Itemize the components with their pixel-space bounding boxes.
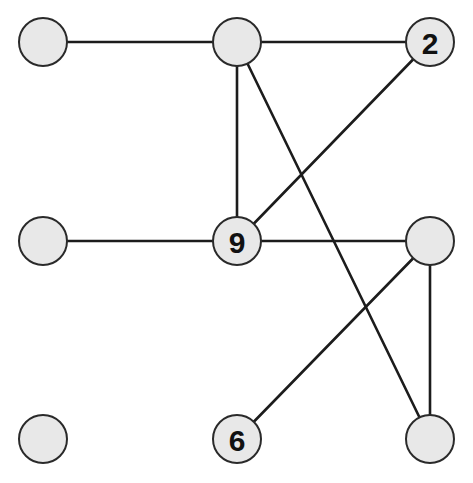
node-label: 6 [229,424,246,457]
node-r1c0 [19,217,67,265]
node-r1c2 [406,217,454,265]
node-r2c1: 6 [213,415,261,463]
node-r0c0 [19,18,67,66]
node-r0c1 [213,18,261,66]
node-label: 2 [422,27,439,60]
node-r1c1: 9 [213,217,261,265]
node-circle [406,217,454,265]
node-label: 9 [229,226,246,259]
edge-r1c2-r2c1 [237,241,430,439]
node-r2c0 [19,415,67,463]
graph-diagram: 296 [0,0,473,483]
node-circle [406,415,454,463]
node-r0c2: 2 [406,18,454,66]
node-circle [19,18,67,66]
node-circle [19,217,67,265]
node-circle [19,415,67,463]
edge-r0c2-r1c1 [237,42,430,241]
node-r2c2 [406,415,454,463]
node-circle [213,18,261,66]
